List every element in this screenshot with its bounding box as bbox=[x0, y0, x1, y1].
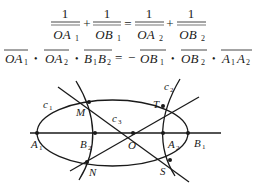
svg-text:1: 1 bbox=[39, 144, 43, 152]
svg-text:1: 1 bbox=[202, 143, 206, 151]
label-c2: c bbox=[164, 80, 169, 92]
label-B1: B bbox=[194, 137, 201, 149]
label-B2: B bbox=[80, 138, 87, 150]
point-B2 bbox=[93, 131, 97, 135]
label-M: M bbox=[75, 106, 86, 118]
label-T: T bbox=[153, 98, 160, 110]
label-O: O bbox=[128, 139, 136, 151]
label-A1: A bbox=[30, 138, 38, 150]
point-N bbox=[85, 160, 89, 164]
svg-text:1: 1 bbox=[49, 104, 53, 112]
point-M bbox=[87, 100, 91, 104]
label-c3: c bbox=[112, 112, 117, 124]
geometry-diagram: c 1 c 2 c 3 A 1 B 2 O A 2 B 1 M N T S bbox=[0, 0, 259, 190]
point-A1 bbox=[35, 131, 39, 135]
svg-text:2: 2 bbox=[88, 144, 92, 152]
label-c1: c bbox=[43, 98, 48, 110]
svg-text:2: 2 bbox=[176, 144, 180, 152]
point-A2 bbox=[161, 131, 165, 135]
label-N: N bbox=[88, 166, 97, 178]
svg-text:2: 2 bbox=[170, 86, 174, 94]
label-S: S bbox=[160, 165, 166, 177]
point-O bbox=[131, 131, 135, 135]
svg-text:3: 3 bbox=[118, 118, 122, 126]
label-A2: A bbox=[167, 138, 175, 150]
point-T bbox=[161, 104, 165, 108]
point-B1 bbox=[186, 131, 190, 135]
point-S bbox=[168, 158, 172, 162]
